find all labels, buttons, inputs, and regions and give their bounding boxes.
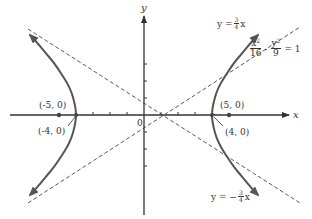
focus-left-label: (-5, 0) — [39, 101, 66, 110]
focus-left-point — [57, 113, 61, 117]
equation-rhs: = 1 — [284, 44, 300, 54]
asymptote-upper-fraction: 3 4 — [234, 17, 240, 30]
equation-fraction-y: y2 9 — [271, 39, 282, 58]
vertex-left-label: (-4, 0) — [38, 127, 65, 136]
vertex-right-point — [210, 113, 214, 117]
origin-label: 0 — [137, 119, 143, 128]
exponent: 2 — [256, 37, 260, 44]
fraction-denominator: 9 — [273, 49, 279, 58]
vertex-right-label: (4, 0) — [225, 128, 249, 137]
asymptote-lower-suffix: x — [245, 192, 250, 202]
asymptote-upper-prefix: y = — [217, 19, 233, 29]
vertex-right-leader — [214, 117, 223, 126]
asymptote-upper-label: y = 3 4 x — [217, 17, 245, 30]
fraction-denominator: 4 — [235, 24, 239, 30]
asymptote-lower-prefix: y = − — [211, 192, 237, 202]
x-axis-label: x — [293, 110, 299, 120]
y-var: y — [272, 38, 277, 48]
exponent: 2 — [277, 37, 281, 44]
fraction-denominator: 16 — [250, 49, 261, 58]
vertex-left-point — [74, 113, 78, 117]
equation-fraction-x: x2 16 — [250, 39, 261, 58]
asymptote-lower-label: y = − 3 4 x — [211, 190, 250, 203]
equation-minus: - — [264, 44, 267, 54]
fraction-denominator: 4 — [239, 197, 243, 203]
asymptote-lower-fraction: 3 4 — [238, 190, 244, 203]
focus-right-label: (5, 0) — [220, 101, 244, 110]
y-axis-label: y — [141, 3, 147, 13]
asymptote-upper-suffix: x — [240, 19, 245, 29]
focus-right-point — [227, 113, 231, 117]
hyperbola-equation: x2 16 - y2 9 = 1 — [249, 39, 301, 58]
